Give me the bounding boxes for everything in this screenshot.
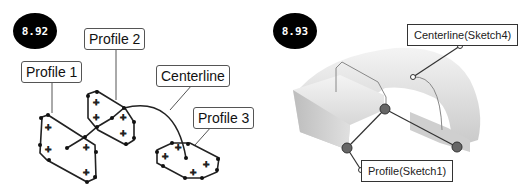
centerline-sketch4-label: Centerline(Sketch4) — [407, 24, 518, 46]
figure-number-badge: 8.93 — [273, 13, 317, 49]
profile-sketch1-label: Profile(Sketch1) — [361, 160, 453, 182]
